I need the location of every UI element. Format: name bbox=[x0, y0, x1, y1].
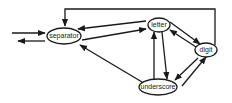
edge-letter-to-underscore bbox=[162, 32, 167, 79]
node-label: separator bbox=[49, 32, 79, 40]
edge-letter-to-separator bbox=[78, 21, 146, 29]
state-diagram: separator letter digit underscore bbox=[0, 0, 232, 103]
edge-underscore-to-separator bbox=[80, 45, 142, 82]
node-label: underscore bbox=[140, 83, 175, 90]
node-digit: digit bbox=[195, 43, 217, 57]
node-letter: letter bbox=[148, 18, 170, 32]
node-separator: separator bbox=[47, 28, 81, 44]
node-label: digit bbox=[200, 46, 213, 54]
node-label: letter bbox=[151, 21, 167, 28]
edge-separator-to-letter bbox=[82, 29, 146, 40]
node-underscore: underscore bbox=[139, 79, 177, 95]
edge-digit-to-underscore bbox=[175, 58, 198, 80]
